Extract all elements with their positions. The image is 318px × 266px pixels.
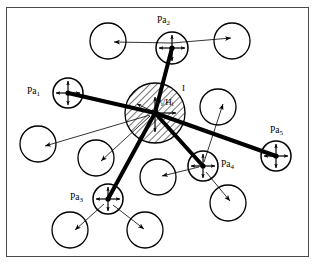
secondary-node (90, 23, 126, 59)
primary-node-pa5 (261, 141, 291, 171)
primary-node-dot (200, 163, 205, 168)
primary-node-dot (105, 196, 110, 201)
node-label-pa5: Pa5 (270, 126, 283, 137)
node-label-pa1: Pa1 (27, 87, 40, 98)
primary-node-dot (65, 90, 70, 95)
node-label-pa2: Pa2 (157, 16, 170, 27)
center-node-mark: I (182, 84, 185, 93)
secondary-node (20, 126, 56, 162)
primary-node-dot (169, 45, 174, 50)
secondary-node (127, 212, 163, 248)
secondary-node (200, 89, 236, 125)
primary-node-pa3 (93, 184, 123, 214)
figure-canvas: Pa1 Pa2 Pa3 Pa4 Pa5 Pi/Hi I (0, 0, 318, 266)
primary-node-pa2 (156, 32, 188, 64)
secondary-node (140, 159, 176, 195)
secondary-node (214, 23, 250, 59)
center-node-label: Pi/Hi (156, 98, 174, 108)
center-node-dot (152, 110, 159, 117)
node-label-pa3: Pa3 (70, 193, 83, 204)
secondary-node (52, 212, 88, 248)
primary-node-pa1 (53, 78, 83, 108)
secondary-node (78, 140, 114, 176)
primary-node-pa4 (188, 151, 218, 181)
node-label-pa4: Pa4 (221, 160, 234, 171)
primary-node-dot (273, 153, 278, 158)
secondary-node (210, 185, 246, 221)
